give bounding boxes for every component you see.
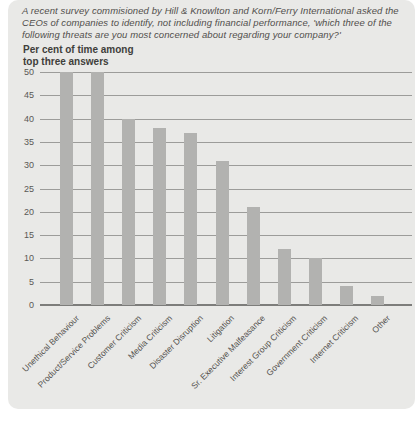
bar <box>91 72 104 305</box>
y-tick-label: 25 <box>8 184 34 194</box>
bar-chart: 05101520253035404550 Unethical Behaviour… <box>8 0 415 409</box>
chart-panel: A recent survey commisioned by Hill & Kn… <box>8 0 415 409</box>
y-tick-label: 30 <box>8 160 34 170</box>
y-tick-label: 50 <box>8 67 34 77</box>
y-tick-label: 0 <box>8 300 34 310</box>
bar <box>309 258 322 305</box>
bar <box>371 296 384 305</box>
bar <box>122 119 135 305</box>
bar <box>153 128 166 305</box>
bar <box>216 161 229 305</box>
bar <box>340 286 353 305</box>
y-tick-label: 5 <box>8 277 34 287</box>
bar <box>60 72 73 305</box>
y-tick-label: 10 <box>8 253 34 263</box>
y-tick-label: 20 <box>8 207 34 217</box>
y-tick-label: 45 <box>8 90 34 100</box>
y-tick-label: 35 <box>8 137 34 147</box>
y-tick-label: 15 <box>8 230 34 240</box>
scanned-chart-page: A recent survey commisioned by Hill & Kn… <box>0 0 420 425</box>
bar <box>278 249 291 305</box>
bar <box>247 207 260 305</box>
y-tick-label: 40 <box>8 114 34 124</box>
bar <box>184 133 197 305</box>
